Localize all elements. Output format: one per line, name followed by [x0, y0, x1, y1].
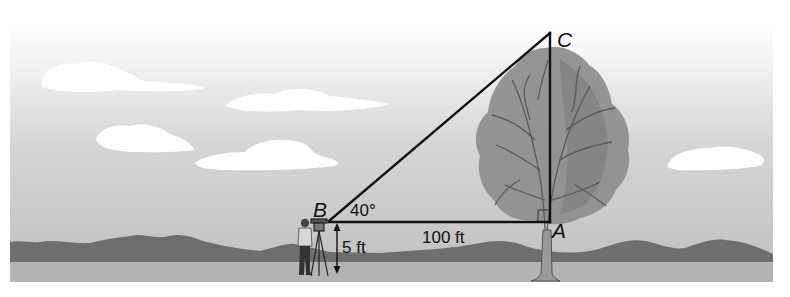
vertex-label-c: C [557, 29, 572, 50]
distance-label: 100 ft [422, 229, 465, 246]
surveyor-torso [298, 228, 312, 246]
ground [10, 262, 773, 282]
surveyor-head [301, 219, 309, 227]
angle-label: 40° [350, 202, 376, 219]
vertex-label-b: B [313, 199, 327, 220]
diagram-canvas [0, 0, 790, 297]
vertex-label-a: A [552, 220, 566, 241]
instrument-height-label: 5 ft [342, 239, 366, 256]
